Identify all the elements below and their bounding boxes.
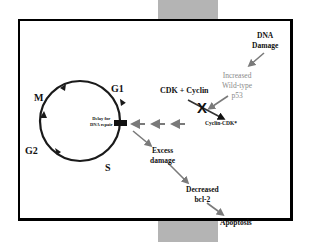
inhibition-x-mark: X	[197, 100, 207, 115]
cycle-arrow-icon	[117, 99, 126, 107]
phase-label-g1: G1	[111, 84, 124, 94]
apoptosis-label: Apoptosis	[220, 219, 252, 227]
phase-label-m: M	[34, 93, 43, 103]
dna-damage-label: DNA Damage	[252, 31, 278, 51]
arrow-damage-to-p53	[250, 53, 264, 65]
excess-damage-label: Excess damage	[150, 146, 175, 166]
arrow-to-excess-damage	[133, 131, 150, 145]
cdk-cyclin-label: CDK + Cyclin	[160, 87, 209, 95]
phase-label-s: S	[105, 163, 111, 173]
increased-wild-type-p53-label: Increased Wild-type p53	[222, 71, 252, 101]
phase-label-g2: G2	[25, 146, 38, 156]
cyclin-cdk-star-label: Cyclin-CDK*	[205, 121, 237, 127]
decreased-bcl2-label: Decreased bcl-2	[186, 185, 219, 205]
checkpoint-block-icon	[114, 120, 127, 126]
delay-for-dna-repair-label: Delay for DNA repair	[90, 116, 113, 128]
